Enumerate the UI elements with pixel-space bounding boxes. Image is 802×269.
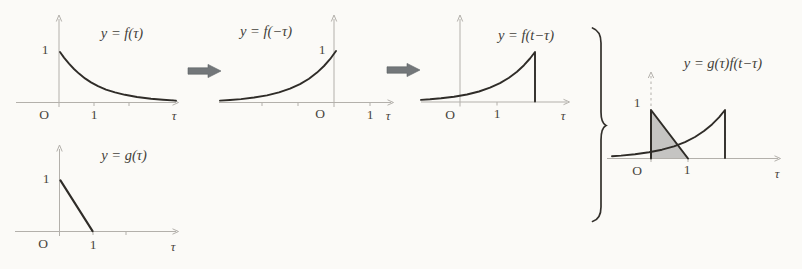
f-tau-curve: [60, 52, 176, 101]
g-tau-y-one-label: 1: [43, 172, 50, 186]
f-t-minus-tau-axis-label: τ: [561, 109, 566, 122]
flow-arrows: [188, 63, 420, 77]
g-tau-axis-label: τ: [171, 240, 176, 253]
f-neg-tau-x-one-label: 1: [367, 108, 374, 122]
product-x-one-label: 1: [684, 163, 691, 177]
f-neg-tau-axis-label: τ: [386, 109, 391, 122]
f-neg-tau-curve: [220, 51, 336, 101]
f-tau-title: y = f(τ): [101, 26, 143, 41]
f-t-minus-tau-title: y = f(t−τ): [498, 28, 554, 43]
g-tau-x-one-label: 1: [90, 238, 97, 252]
f-tau-x-one-label: 1: [91, 108, 98, 122]
convolution-figure: y = f(τ) 1 O 1 τ y = f(−τ) 1 O 1 τ y = f…: [0, 0, 802, 269]
f-t-minus-tau-origin-label: O: [445, 108, 455, 122]
f-tau-y-one-label: 1: [42, 43, 49, 57]
f-tau-axis-label: τ: [172, 109, 177, 122]
f-t-minus-tau-x-one-label: 1: [494, 107, 501, 121]
product-origin-label: O: [632, 164, 642, 178]
product-axis-label: τ: [775, 167, 780, 180]
product-ticks: [651, 159, 688, 163]
f-neg-tau-origin-label: O: [315, 107, 325, 121]
curly-brace: [593, 28, 607, 222]
arrow-right-1-icon: [188, 64, 221, 77]
g-tau-title: y = g(τ): [101, 148, 147, 163]
f-t-minus-tau-curve: [421, 52, 535, 102]
f-neg-tau-title: y = f(−τ): [240, 24, 292, 39]
g-tau-line: [61, 181, 93, 232]
axes-layer: [15, 15, 781, 236]
f-tau-ticks: [94, 103, 129, 107]
g-tau-origin-label: O: [38, 237, 48, 251]
g-tau-ticks: [93, 232, 126, 236]
f-neg-tau-y-one-label: 1: [319, 43, 326, 57]
f-tau-origin-label: O: [39, 108, 49, 122]
curves-layer: [60, 51, 725, 231]
product-y-one-label: 1: [634, 96, 641, 110]
product-title: y = g(τ)f(t−τ): [684, 56, 762, 71]
arrow-right-2-icon: [387, 63, 420, 76]
